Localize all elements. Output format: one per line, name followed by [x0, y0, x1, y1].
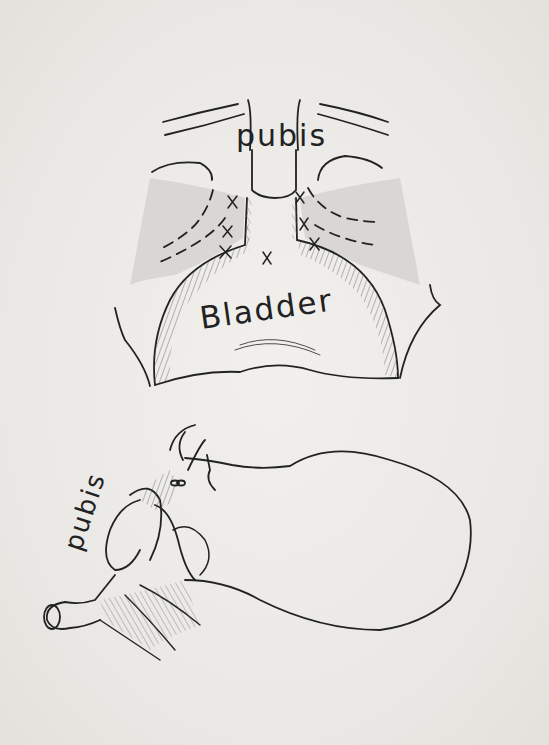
label-pubis-top: pubis [236, 118, 327, 153]
illustration-page: pubis Bladder pubis [0, 0, 549, 745]
anatomical-drawing [0, 0, 549, 745]
side-view-diagram [44, 425, 471, 660]
